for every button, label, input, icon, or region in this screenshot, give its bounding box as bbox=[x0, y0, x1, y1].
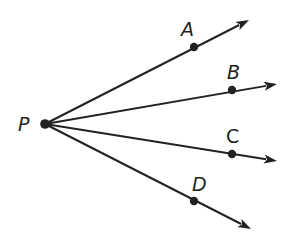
point-d bbox=[190, 197, 198, 205]
rays-layer bbox=[45, 20, 277, 229]
point-p-origin bbox=[40, 119, 50, 129]
label-d: D bbox=[192, 173, 207, 195]
diagram-canvas: ABCDP bbox=[0, 0, 288, 249]
ray-a bbox=[45, 25, 239, 124]
point-b bbox=[228, 86, 236, 94]
label-p: P bbox=[18, 113, 30, 135]
label-c: C bbox=[226, 125, 239, 147]
points-layer bbox=[40, 43, 236, 205]
point-a bbox=[190, 43, 198, 51]
label-a: A bbox=[179, 18, 194, 40]
labels-layer: ABCDP bbox=[18, 18, 240, 195]
label-b: B bbox=[227, 61, 240, 83]
rays-diagram: ABCDP bbox=[0, 0, 288, 249]
point-c bbox=[228, 150, 236, 158]
